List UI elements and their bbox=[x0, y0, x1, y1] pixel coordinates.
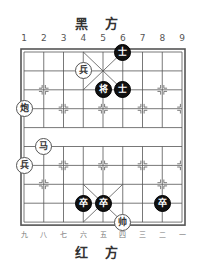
file-label-bottom: 八 bbox=[37, 230, 51, 240]
file-label-bottom: 九 bbox=[17, 230, 31, 240]
black-piece-将[interactable]: 将 bbox=[95, 81, 112, 98]
file-label-bottom: 二 bbox=[155, 230, 169, 240]
black-piece-卒[interactable]: 卒 bbox=[95, 195, 112, 212]
red-piece-兵[interactable]: 兵 bbox=[16, 157, 33, 174]
file-label-bottom: 四 bbox=[116, 230, 130, 240]
file-label-bottom: 三 bbox=[136, 230, 150, 240]
black-piece-卒[interactable]: 卒 bbox=[75, 195, 92, 212]
file-label-bottom: 五 bbox=[96, 230, 110, 240]
file-label-bottom: 六 bbox=[76, 230, 90, 240]
black-piece-士[interactable]: 士 bbox=[114, 44, 131, 61]
red-side-label: 红 方 bbox=[0, 242, 199, 261]
red-piece-炮[interactable]: 炮 bbox=[16, 100, 33, 117]
file-label-bottom: 七 bbox=[57, 230, 71, 240]
black-piece-卒[interactable]: 卒 bbox=[154, 195, 171, 212]
red-piece-帅[interactable]: 帅 bbox=[114, 214, 131, 231]
file-label-bottom: 一 bbox=[175, 230, 189, 240]
